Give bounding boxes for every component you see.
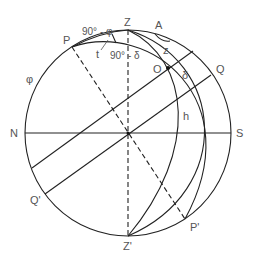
label-north: N xyxy=(10,127,18,139)
label-latitude: φ xyxy=(26,73,33,85)
label-pole: P xyxy=(63,34,70,46)
label-declination-o: δ xyxy=(182,69,188,81)
label-colatitude: 90° - φ xyxy=(82,26,113,37)
label-equator-east: Q xyxy=(216,63,225,75)
object-point-o xyxy=(166,66,170,70)
label-altitude: h xyxy=(183,110,189,122)
label-nadir: Z' xyxy=(123,240,132,252)
center-point xyxy=(127,132,130,135)
label-zenith: Z xyxy=(124,16,131,28)
label-pole-opposite: P' xyxy=(190,221,199,233)
label-codeclination: 90° - δ xyxy=(110,50,140,61)
label-equator-west: Q' xyxy=(30,194,41,206)
label-object: O xyxy=(153,63,162,75)
label-azimuth: A xyxy=(155,19,163,31)
label-hour-angle: t xyxy=(96,48,99,60)
label-zenith-distance: z xyxy=(163,44,169,56)
celestial-sphere-diagram: Z Z' N S P P' Q Q' O A z δ h t φ 90° - φ… xyxy=(0,0,256,262)
label-south: S xyxy=(236,127,243,139)
